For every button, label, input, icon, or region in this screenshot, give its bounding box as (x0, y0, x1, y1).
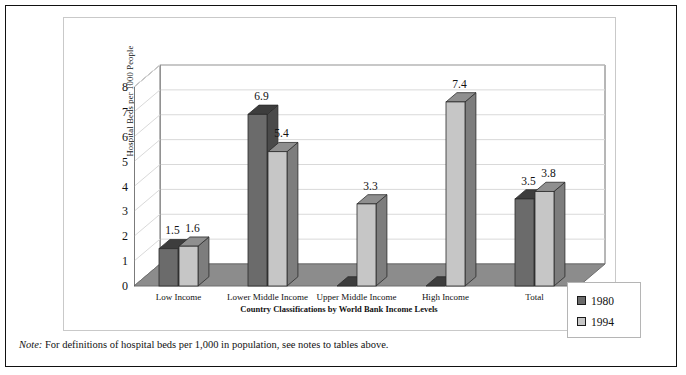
data-label-1980-4: 3.5 (521, 175, 535, 187)
data-label-1994-1: 5.4 (274, 127, 288, 139)
legend-label-1994: 1994 (591, 316, 614, 328)
footnote: Note: For definitions of hospital beds p… (19, 339, 388, 350)
x-label-lower-middle-income: Lower Middle Income (227, 292, 308, 302)
bar-chart-svg (134, 43, 609, 288)
bar-high-income-1994 (446, 93, 476, 286)
y-tick-7: 7 (112, 104, 128, 119)
data-label-1994-0: 1.6 (185, 222, 199, 234)
legend-item-1980[interactable]: 1980 (577, 290, 640, 311)
y-tick-4: 4 (112, 179, 128, 194)
plot-area: 012345678 1.51.66.95.43.37.43.53.8 Low I… (134, 43, 609, 288)
y-tick-3: 3 (112, 204, 128, 219)
footnote-prefix: Note: (19, 339, 42, 350)
bar-total-1994 (535, 182, 565, 286)
data-label-1994-2: 3.3 (363, 180, 377, 192)
y-tick-5: 5 (112, 154, 128, 169)
y-tick-1: 1 (112, 254, 128, 269)
legend-label-1980: 1980 (591, 295, 614, 307)
data-label-1980-1: 6.9 (254, 90, 268, 102)
chart-container: Hospital Beds per 1000 People 012345678 … (63, 17, 616, 331)
y-tick-6: 6 (112, 129, 128, 144)
data-label-1994-4: 3.8 (541, 167, 555, 179)
y-tick-0: 0 (112, 279, 128, 294)
legend-swatch-1980 (577, 296, 586, 305)
x-label-upper-middle-income: Upper Middle Income (317, 292, 397, 302)
data-label-1980-0: 1.5 (165, 224, 179, 236)
footnote-text: For definitions of hospital beds per 1,0… (45, 339, 389, 350)
chart-legend: 1980 1994 (567, 282, 641, 338)
page-border: Hospital Beds per 1000 People 012345678 … (5, 5, 677, 367)
x-label-high-income: High Income (422, 292, 469, 302)
bar-upper-middle-income-1994 (357, 195, 387, 286)
y-tick-8: 8 (112, 80, 128, 95)
y-tick-2: 2 (112, 229, 128, 244)
data-label-1994-3: 7.4 (452, 78, 466, 90)
x-axis-title: Country Classifications by World Bank In… (124, 304, 554, 314)
legend-item-1994[interactable]: 1994 (577, 311, 640, 332)
bar-low-income-1994 (179, 237, 209, 286)
bar-lower-middle-income-1994 (268, 142, 298, 286)
x-label-total: Total (525, 292, 543, 302)
x-label-low-income: Low Income (156, 292, 202, 302)
legend-swatch-1994 (577, 317, 586, 326)
